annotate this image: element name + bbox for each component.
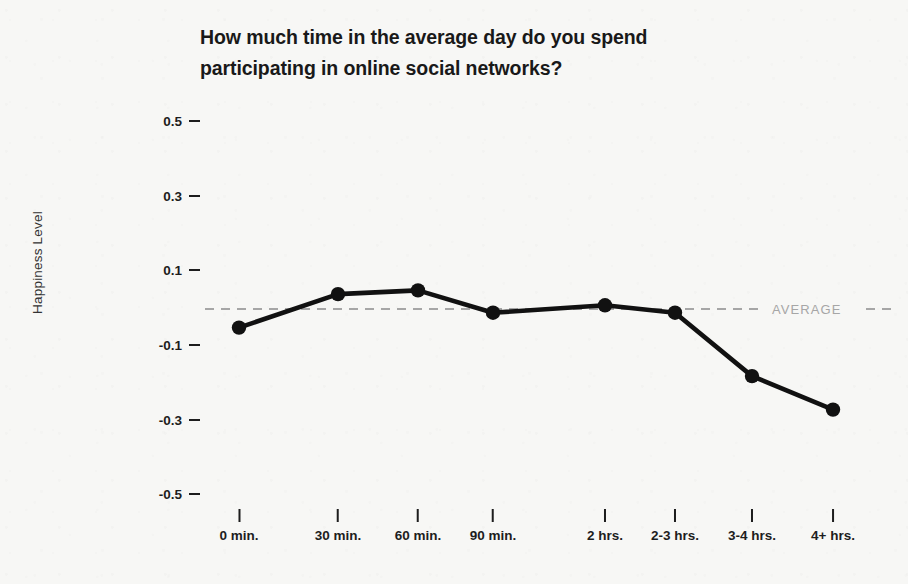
x-tick-0: 0 min. <box>219 509 258 543</box>
x-tick-mark-icon <box>417 509 419 522</box>
x-tick-6: 3-4 hrs. <box>728 509 776 543</box>
x-tick-label: 4+ hrs. <box>811 528 855 543</box>
x-tick-label: 30 min. <box>315 528 362 543</box>
happiness-vs-social-network-time-chart: How much time in the average day do you … <box>0 0 908 584</box>
x-tick-3: 90 min. <box>470 509 517 543</box>
x-axis-ticks: 0 min. 30 min. 60 min. 90 min. 2 hrs. 2-… <box>0 0 908 584</box>
x-tick-mark-icon <box>492 509 494 522</box>
x-tick-2: 60 min. <box>395 509 442 543</box>
x-tick-mark-icon <box>832 509 834 522</box>
x-tick-mark-icon <box>337 509 339 522</box>
x-tick-5: 2-3 hrs. <box>651 509 699 543</box>
x-tick-7: 4+ hrs. <box>811 509 855 543</box>
x-tick-label: 90 min. <box>470 528 517 543</box>
x-tick-mark-icon <box>238 509 240 522</box>
x-tick-label: 60 min. <box>395 528 442 543</box>
x-tick-mark-icon <box>751 509 753 522</box>
x-tick-1: 30 min. <box>315 509 362 543</box>
x-tick-4: 2 hrs. <box>587 509 623 543</box>
x-tick-mark-icon <box>674 509 676 522</box>
x-tick-label: 0 min. <box>219 528 258 543</box>
x-tick-label: 3-4 hrs. <box>728 528 776 543</box>
x-tick-mark-icon <box>604 509 606 522</box>
x-tick-label: 2-3 hrs. <box>651 528 699 543</box>
x-tick-label: 2 hrs. <box>587 528 623 543</box>
